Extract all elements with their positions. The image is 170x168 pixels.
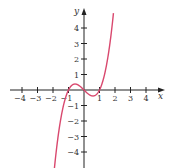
x-tick-label: −3 — [30, 94, 42, 103]
y-tick-label: −3 — [67, 133, 79, 142]
x-tick-label: −4 — [14, 94, 26, 103]
y-axis-label: y — [73, 6, 80, 16]
cubic-function-graph: −4−3−2−11234−4−3−2−11234 x y — [0, 0, 170, 168]
axes — [10, 8, 165, 168]
y-tick-label: −4 — [67, 148, 79, 157]
y-tick-label: 2 — [74, 55, 79, 64]
y-tick-label: 3 — [74, 40, 79, 49]
y-tick-label: −2 — [67, 117, 79, 126]
x-axis-label: x — [158, 91, 163, 101]
y-axis-arrow-icon — [82, 8, 87, 15]
x-tick-label: 3 — [128, 94, 133, 103]
y-tick-label: 4 — [74, 24, 79, 33]
x-tick-label: −2 — [45, 94, 57, 103]
x-tick-label: 1 — [97, 94, 102, 103]
y-tick-label: 1 — [74, 71, 79, 80]
x-tick-label: 4 — [143, 94, 148, 103]
x-tick-label: 2 — [112, 94, 117, 103]
y-tick-label: −1 — [67, 102, 79, 111]
